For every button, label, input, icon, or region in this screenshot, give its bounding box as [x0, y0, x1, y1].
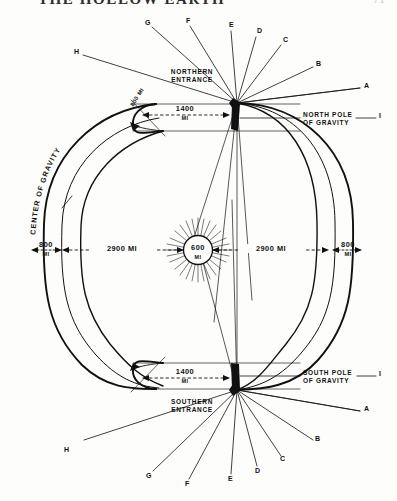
dimension-right-shell: 800 MI [328, 240, 368, 259]
center-of-gravity-label: CENTER OF GRAVITY [28, 146, 62, 236]
ray-label-top-f: F [186, 17, 190, 26]
page-canvas: THE HOLLOW EARTH 71 [0, 0, 397, 501]
ray-label-top-b: B [316, 60, 321, 69]
ray-label-bottom-h: H [64, 446, 69, 455]
ray-label-top-a: A [364, 82, 369, 91]
ray-label-bottom-d: D [255, 467, 260, 476]
ray-label-bottom-b: B [315, 435, 320, 444]
ray-label-bottom-f: F [185, 480, 189, 489]
dimension-left-shell: 800 MI [26, 240, 66, 259]
dimension-south-opening: 1400 MI [156, 367, 214, 386]
ray-label-top-e: E [229, 21, 234, 30]
dimension-central-sun: 600 MI [178, 243, 218, 262]
north-pole-of-gravity-label: NORTH POLE OF GRAVITY [303, 111, 353, 127]
south-pole-of-gravity-label: SOUTH POLE OF GRAVITY [303, 369, 352, 385]
ray-label-top-g: G [145, 19, 150, 28]
southern-entrance-label: SOUTHERN ENTRANCE [160, 398, 224, 414]
ray-label-top-c: C [283, 36, 288, 45]
dimension-left-cavity: 2900 MI [89, 244, 155, 253]
ray-label-top-h: H [74, 48, 79, 57]
shell-inner-surface-left [81, 131, 163, 386]
ray-label-top-d: D [257, 27, 262, 36]
ray-label-bottom-g: G [146, 472, 151, 481]
northern-entrance-label: NORTHERN ENTRANCE [160, 68, 224, 84]
ray-label-top-i: I [379, 112, 381, 121]
ray-label-bottom-a: A [364, 405, 369, 414]
ray-label-bottom-e: E [228, 475, 233, 484]
dimension-north-opening: 1400 MI [156, 104, 214, 123]
ray-label-bottom-c: C [280, 455, 285, 464]
dimension-right-cavity: 2900 MI [238, 244, 304, 253]
ray-label-bottom-i: I [379, 370, 381, 379]
